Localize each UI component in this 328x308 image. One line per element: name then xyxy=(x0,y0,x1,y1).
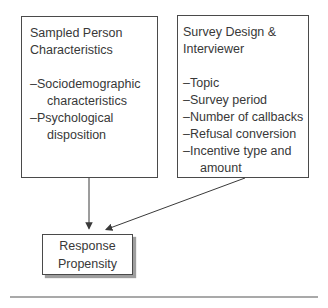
bullet-continuation-line: amount xyxy=(183,160,306,177)
diagram-canvas: Sampled Person Characteristics –Sociodem… xyxy=(0,0,328,308)
bullet-item-line: –Psychological xyxy=(30,110,155,127)
box-title-line: Sampled Person xyxy=(30,25,155,42)
response-propensity-box: Response Propensity xyxy=(42,234,133,275)
sampled-person-box: Sampled Person Characteristics –Sociodem… xyxy=(21,16,158,178)
bullet-continuation-line: characteristics xyxy=(30,93,155,110)
box-title-line: Interviewer xyxy=(183,41,306,58)
box-title-line: Characteristics xyxy=(30,42,155,59)
outcome-label-line: Propensity xyxy=(43,255,132,273)
bullet-item-line: –Incentive type and xyxy=(183,143,306,160)
arrow-survey-to-response xyxy=(106,178,245,230)
bullet-item-line: –Survey period xyxy=(183,92,306,109)
bullet-item-line: –Number of callbacks xyxy=(183,109,306,126)
bullet-item-line: –Sociodemographic xyxy=(30,76,155,93)
line-spacer xyxy=(183,58,306,75)
bullet-item-line: –Refusal conversion xyxy=(183,126,306,143)
box-title-line: Survey Design & xyxy=(183,24,306,41)
bullet-continuation-line: disposition xyxy=(30,127,155,144)
survey-design-box: Survey Design & Interviewer –Topic –Surv… xyxy=(177,15,309,178)
bullet-item-line: –Topic xyxy=(183,75,306,92)
outcome-label-line: Response xyxy=(43,237,132,255)
line-spacer xyxy=(30,59,155,76)
